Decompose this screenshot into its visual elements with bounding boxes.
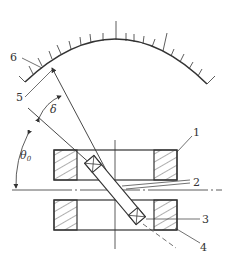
- scale-arc: [19, 21, 215, 84]
- theta-label: θ0: [20, 149, 32, 163]
- lower-block: [54, 200, 177, 230]
- label-4: 4: [200, 241, 207, 254]
- leader-4: [175, 228, 200, 243]
- label-3: 3: [202, 213, 209, 226]
- leader-5: [25, 70, 52, 97]
- label-2: 2: [193, 176, 200, 189]
- leader-1: [177, 136, 192, 152]
- label-1: 1: [193, 126, 200, 139]
- leader-2: [122, 180, 190, 186]
- label-5: 5: [16, 91, 23, 104]
- leader-2b: [126, 183, 190, 189]
- diagram-figure: δ θ0 1 2 3 4 5 6: [0, 0, 234, 262]
- upper-block: [54, 150, 177, 180]
- delta-label: δ: [50, 103, 57, 116]
- label-6: 6: [10, 51, 17, 64]
